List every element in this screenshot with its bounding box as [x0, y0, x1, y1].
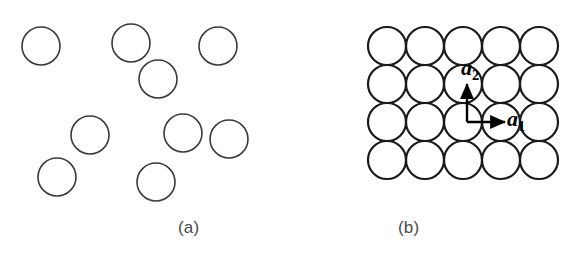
figure-background — [0, 0, 588, 262]
figure-canvas — [0, 0, 588, 262]
figure-root: (a) (b) a1 a2 — [0, 0, 588, 262]
lattice-vector-a1-label: a1 — [507, 108, 525, 134]
a2-subscript: 2 — [472, 67, 479, 83]
panel-b-caption: (b) — [398, 218, 419, 238]
a1-subscript: 1 — [518, 118, 525, 134]
a2-base: a — [461, 55, 472, 80]
lattice-vector-a2-label: a2 — [461, 57, 479, 83]
panel-a-caption: (a) — [178, 218, 199, 238]
a1-base: a — [507, 106, 518, 131]
